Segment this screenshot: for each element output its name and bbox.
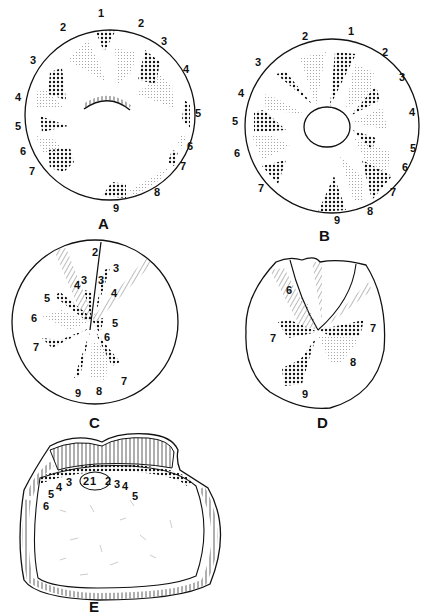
svg-text:8: 8 xyxy=(154,186,160,198)
svg-text:3: 3 xyxy=(81,274,87,286)
panel-e-label: E xyxy=(89,598,99,615)
panel-a-outline xyxy=(25,30,195,200)
svg-text:2: 2 xyxy=(83,475,89,487)
svg-text:7: 7 xyxy=(180,160,186,172)
panel-b-central-ring xyxy=(304,107,350,147)
svg-text:2: 2 xyxy=(92,246,98,258)
svg-text:1: 1 xyxy=(348,25,354,37)
svg-text:3: 3 xyxy=(98,274,104,286)
panel-a-number: 1 xyxy=(98,7,104,19)
svg-text:4: 4 xyxy=(122,480,129,492)
svg-text:5: 5 xyxy=(410,142,416,154)
panel-d-label: D xyxy=(317,414,328,431)
svg-text:4: 4 xyxy=(111,287,118,299)
svg-text:3: 3 xyxy=(113,262,119,274)
svg-text:2: 2 xyxy=(138,17,144,29)
svg-text:7: 7 xyxy=(370,322,376,334)
panel-e: 1 2 2 3 3 4 4 5 5 6 E xyxy=(20,434,221,615)
panel-c-label: C xyxy=(89,414,100,431)
svg-text:4: 4 xyxy=(238,87,245,99)
panel-c: 2 3 3 3 4 4 5 5 6 6 7 7 8 9 C xyxy=(12,240,178,431)
svg-text:4: 4 xyxy=(15,91,22,103)
svg-text:4: 4 xyxy=(409,106,416,118)
svg-text:3: 3 xyxy=(66,476,72,488)
svg-text:6: 6 xyxy=(234,147,240,159)
embryo-diagram-figure: 1 2 2 3 3 4 4 5 5 6 6 7 7 8 9 A 1 2 xyxy=(0,0,426,616)
svg-text:5: 5 xyxy=(48,488,54,500)
svg-text:7: 7 xyxy=(33,341,39,353)
panel-a: 1 2 2 3 3 4 4 5 5 6 6 7 7 8 9 A xyxy=(15,7,201,232)
svg-text:6: 6 xyxy=(402,161,408,173)
svg-text:5: 5 xyxy=(44,292,50,304)
svg-text:2: 2 xyxy=(105,475,111,487)
svg-text:7: 7 xyxy=(29,165,35,177)
svg-text:3: 3 xyxy=(399,71,405,83)
svg-text:3: 3 xyxy=(255,56,261,68)
svg-text:2: 2 xyxy=(382,46,388,58)
svg-text:9: 9 xyxy=(302,388,308,400)
panel-b-label: B xyxy=(319,227,330,244)
svg-text:7: 7 xyxy=(121,375,127,387)
svg-text:3: 3 xyxy=(30,54,36,66)
svg-text:7: 7 xyxy=(270,332,276,344)
svg-text:6: 6 xyxy=(20,145,26,157)
svg-text:6: 6 xyxy=(43,500,49,512)
panel-d: 6 7 7 8 9 D xyxy=(246,258,385,431)
svg-text:3: 3 xyxy=(114,478,120,490)
svg-text:5: 5 xyxy=(132,490,138,502)
svg-text:8: 8 xyxy=(367,205,373,217)
svg-text:8: 8 xyxy=(96,385,102,397)
svg-text:6: 6 xyxy=(104,331,110,343)
svg-text:9: 9 xyxy=(334,214,340,226)
svg-text:2: 2 xyxy=(302,30,308,42)
panel-a-label: A xyxy=(98,215,109,232)
panel-e-yolk-texture xyxy=(60,500,172,575)
svg-text:6: 6 xyxy=(286,284,292,296)
svg-text:2: 2 xyxy=(60,21,66,33)
svg-text:3: 3 xyxy=(161,35,167,47)
svg-text:6: 6 xyxy=(31,312,37,324)
svg-text:9: 9 xyxy=(75,387,81,399)
svg-text:5: 5 xyxy=(15,120,21,132)
svg-text:7: 7 xyxy=(258,182,264,194)
svg-text:8: 8 xyxy=(350,356,356,368)
svg-text:5: 5 xyxy=(232,115,238,127)
svg-text:4: 4 xyxy=(56,481,63,493)
panel-b: 1 2 2 3 3 4 4 5 5 6 6 7 7 8 9 B xyxy=(232,25,419,244)
svg-text:7: 7 xyxy=(390,186,396,198)
svg-text:6: 6 xyxy=(187,140,193,152)
svg-text:5: 5 xyxy=(195,107,201,119)
svg-text:4: 4 xyxy=(74,279,81,291)
svg-text:9: 9 xyxy=(113,202,119,214)
svg-text:1: 1 xyxy=(90,475,96,487)
svg-text:4: 4 xyxy=(183,63,190,75)
svg-text:5: 5 xyxy=(112,317,118,329)
